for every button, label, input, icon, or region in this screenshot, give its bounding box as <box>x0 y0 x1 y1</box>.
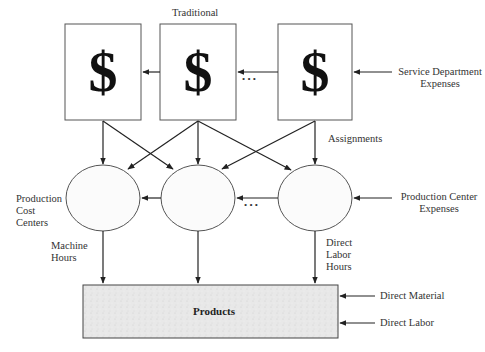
dollar-icon: $ <box>160 43 236 101</box>
ellipsis-middle: • • • <box>244 199 258 211</box>
direct-labor-hours-label: Direct Labor Hours <box>326 237 352 273</box>
ellipsis-top: • • • <box>242 73 256 85</box>
direct-material-label: Direct Material <box>380 290 444 302</box>
products-label: Products <box>193 305 235 317</box>
cost-center-circle-3 <box>278 165 352 231</box>
dollar-icon: $ <box>65 43 141 101</box>
production-center-expenses-label: Production Center Expenses <box>393 191 485 215</box>
dollar-icon: $ <box>278 43 352 101</box>
cost-center-circle-1 <box>66 165 140 231</box>
diagram-title: Traditional <box>172 7 218 19</box>
cost-center-circle-2 <box>161 165 235 231</box>
assignments-label: Assignments <box>328 133 382 145</box>
direct-labor-label: Direct Labor <box>380 317 434 329</box>
production-cost-centers-label: Production Cost Centers <box>16 193 62 229</box>
arrow-b2-c3 <box>198 121 291 170</box>
service-dept-expenses-label: Service Department Expenses <box>395 66 485 90</box>
machine-hours-label: Machine Hours <box>51 240 88 264</box>
arrow-b3-c2 <box>222 121 315 169</box>
